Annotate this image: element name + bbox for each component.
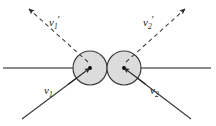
label-v2-prime-mark: ′ xyxy=(152,14,154,25)
label-v2: v2 xyxy=(150,84,159,99)
label-v2-prime: v2′ xyxy=(143,14,154,30)
label-v2-subscript: 2 xyxy=(155,90,159,99)
label-v1-prime-mark: ′ xyxy=(58,14,60,25)
outgoing-vector-v2-prime xyxy=(126,9,185,62)
label-v1: v1 xyxy=(44,84,53,99)
collision-diagram-canvas: v1′ v2′ v1 v2 xyxy=(0,0,216,126)
label-v1-prime: v1′ xyxy=(49,14,60,30)
outgoing-vector-v2-prime-shaft xyxy=(126,9,185,62)
collision-diagram: v1′ v2′ v1 v2 xyxy=(0,0,216,126)
label-v1-subscript: 1 xyxy=(49,90,53,99)
